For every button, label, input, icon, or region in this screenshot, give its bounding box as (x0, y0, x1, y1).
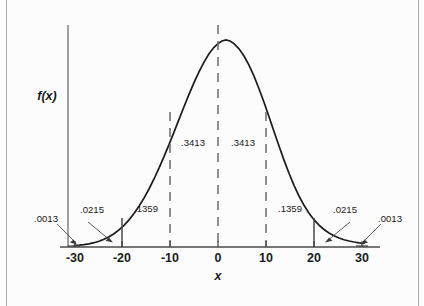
x-tick-label-minus-10: -10 (161, 251, 179, 265)
prob-label-left-two-sigma: .1359 (134, 203, 158, 214)
x-tick-label-plus-20: 20 (307, 251, 321, 265)
y-axis-label: f(x) (37, 89, 56, 103)
prob-label-right-tail: .0013 (378, 213, 402, 224)
x-tick-label-zero: 0 (215, 251, 222, 265)
prob-label-right-two-sigma: .1359 (278, 203, 302, 214)
x-tick-label-plus-30: 30 (355, 251, 369, 265)
prob-label-right-one-sigma: .3413 (231, 137, 255, 148)
x-tick-label-plus-10: 10 (259, 251, 273, 265)
prob-label-left-three-sigma: .0215 (80, 204, 104, 215)
leader-left-tail-arrowhead (70, 240, 77, 245)
x-tick-label-minus-30: -30 (66, 251, 84, 265)
normal-distribution-figure: -30 -20 -10 0 10 20 30 f(x) x .0013 .021… (0, 0, 424, 306)
leader-right-two-sigma-arrowhead (325, 237, 333, 242)
prob-label-left-tail: .0013 (34, 213, 58, 224)
leader-left-two-sigma (88, 222, 111, 241)
prob-label-right-three-sigma: .0215 (333, 204, 357, 215)
prob-label-left-one-sigma: .3413 (181, 137, 205, 148)
normal-curve (74, 40, 364, 246)
x-tick-label-minus-20: -20 (113, 251, 131, 265)
figure-page: -30 -20 -10 0 10 20 30 f(x) x .0013 .021… (0, 0, 424, 306)
x-axis-label: x (214, 269, 223, 283)
